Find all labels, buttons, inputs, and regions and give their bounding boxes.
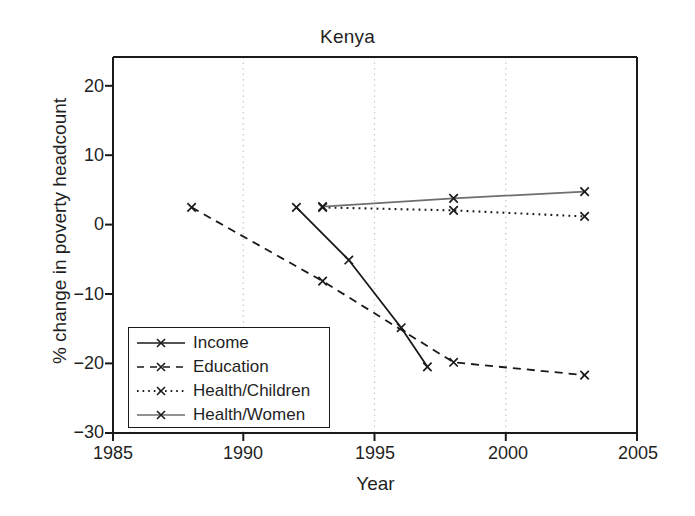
y-ticks bbox=[105, 86, 113, 433]
legend-swatch-health-children bbox=[135, 383, 187, 399]
plot-area bbox=[0, 0, 695, 516]
legend-item-education: Education bbox=[135, 355, 269, 379]
series-line bbox=[323, 207, 585, 216]
legend-swatch-education bbox=[135, 359, 187, 375]
data-point-marker bbox=[580, 371, 588, 379]
legend-item-health-children: Health/Children bbox=[135, 379, 310, 403]
chart-legend: Income Education Health/Children Health/… bbox=[128, 327, 330, 428]
legend-label-health-children: Health/Children bbox=[193, 381, 310, 401]
legend-label-income: Income bbox=[193, 333, 249, 353]
data-point-marker bbox=[449, 206, 457, 214]
legend-label-health-women: Health/Women bbox=[193, 405, 305, 425]
legend-item-health-women: Health/Women bbox=[135, 403, 305, 427]
legend-swatch-health-women bbox=[135, 407, 187, 423]
data-point-marker bbox=[318, 277, 326, 285]
series-health-children bbox=[318, 203, 588, 220]
legend-item-income: Income bbox=[135, 331, 249, 355]
legend-label-education: Education bbox=[193, 357, 269, 377]
data-point-marker bbox=[345, 256, 353, 264]
legend-swatch-income bbox=[135, 335, 187, 351]
data-point-marker bbox=[449, 358, 457, 366]
data-point-marker bbox=[292, 203, 300, 211]
data-point-marker bbox=[187, 203, 195, 211]
data-point-marker bbox=[423, 363, 431, 371]
x-ticks bbox=[113, 433, 637, 441]
chart-figure: Kenya % change in poverty headcount Year… bbox=[0, 0, 695, 516]
